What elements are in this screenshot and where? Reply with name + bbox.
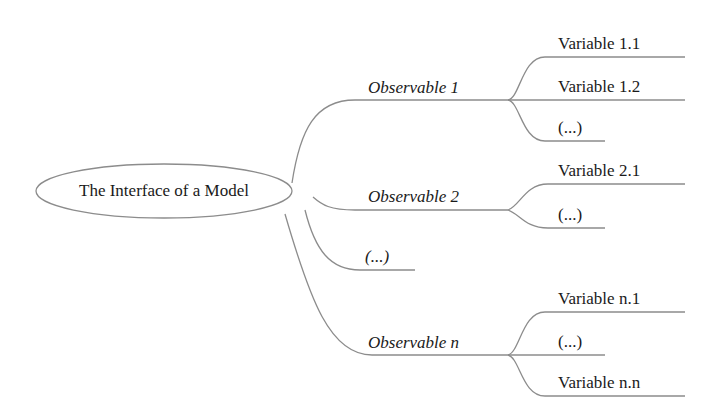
observable-2-label: Observable 2: [368, 187, 459, 207]
root-node: The Interface of a Model: [36, 164, 292, 218]
root-label: The Interface of a Model: [79, 181, 249, 201]
variable-n-n: Variable n.n: [558, 373, 640, 393]
observable-1-label: Observable 1: [368, 78, 459, 98]
variable-n-ellipsis: (...): [558, 332, 582, 352]
variable-2-ellipsis: (...): [558, 205, 582, 225]
observable-n-label: Observable n: [368, 333, 459, 353]
variable-2-1: Variable 2.1: [558, 161, 640, 181]
variable-1-ellipsis: (...): [558, 118, 582, 138]
observable-ellipsis-label: (...): [365, 247, 389, 267]
variable-1-2: Variable 1.2: [558, 77, 640, 97]
variable-1-1: Variable 1.1: [558, 34, 640, 54]
variable-n-1: Variable n.1: [558, 289, 640, 309]
